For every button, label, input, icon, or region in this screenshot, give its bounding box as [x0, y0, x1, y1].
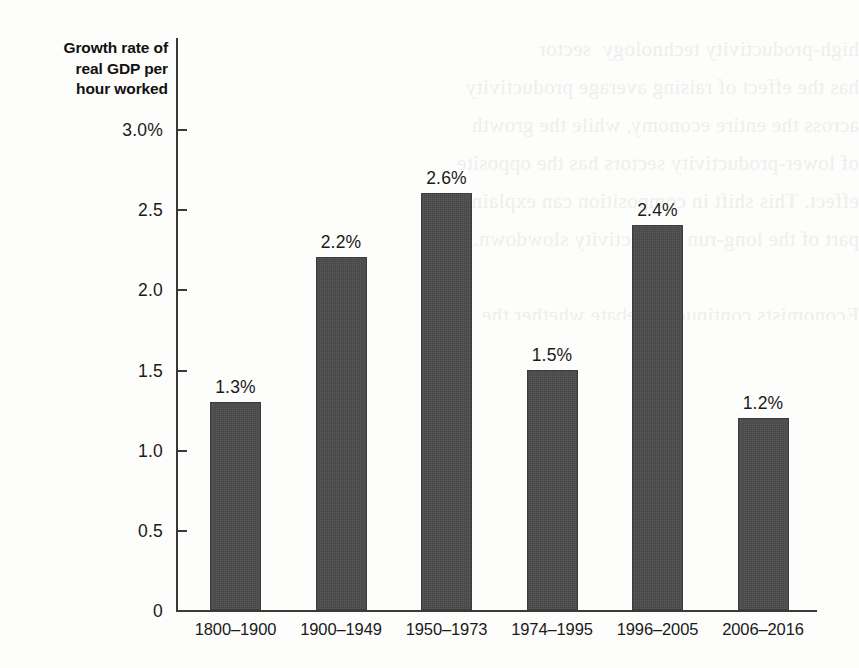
x-axis-tick-label: 1800–1900: [195, 620, 277, 639]
bar[interactable]: 2.2%: [316, 257, 367, 610]
bar-value-label: 2.4%: [637, 200, 678, 221]
x-axis-line: [176, 610, 817, 612]
x-axis-tick-label: 1950–1973: [406, 620, 488, 639]
bar-value-label: 2.2%: [321, 232, 362, 253]
y-axis-title-line-3: hour worked: [10, 79, 168, 100]
bar[interactable]: 2.6%: [421, 193, 472, 610]
y-axis-tick-label: 0: [153, 601, 163, 622]
y-axis-tick-mark: [178, 370, 187, 372]
bar[interactable]: 1.3%: [210, 402, 261, 610]
bar[interactable]: 1.2%: [738, 418, 789, 610]
y-axis-tick-label: 2.0: [138, 280, 163, 301]
y-axis-tick-mark: [178, 289, 187, 291]
x-axis-tick-label: 1900–1949: [300, 620, 382, 639]
y-axis-tick-mark: [178, 530, 187, 532]
y-axis-line: [176, 38, 178, 612]
bar-chart: Growth rate of real GDP per hour worked …: [0, 0, 859, 668]
y-axis-tick-mark: [178, 209, 187, 211]
bar[interactable]: 1.5%: [527, 370, 578, 611]
bar-value-label: 2.6%: [426, 168, 467, 189]
plot-area: 3.0%2.52.01.51.00.50 1.3%2.2%2.6%1.5%2.4…: [176, 38, 817, 612]
bar-value-label: 1.3%: [215, 377, 256, 398]
x-axis-tick-label: 1974–1995: [511, 620, 593, 639]
y-axis-tick-label: 1.0: [138, 440, 163, 461]
y-axis-title-line-1: Growth rate of: [10, 38, 168, 59]
y-axis-tick-label: 2.5: [138, 200, 163, 221]
y-axis-title: Growth rate of real GDP per hour worked: [10, 38, 168, 100]
x-axis-tick-label: 1996–2005: [617, 620, 699, 639]
bar-value-label: 1.2%: [743, 393, 784, 414]
y-axis-tick-mark: [178, 129, 187, 131]
y-axis-tick-mark: [178, 450, 187, 452]
y-axis-tick-label: 3.0%: [122, 120, 163, 141]
y-axis-tick-label: 1.5: [138, 360, 163, 381]
bar[interactable]: 2.4%: [632, 225, 683, 610]
y-axis-tick-label: 0.5: [138, 520, 163, 541]
x-axis-tick-label: 2006–2016: [722, 620, 804, 639]
y-axis-title-line-2: real GDP per: [10, 59, 168, 80]
bar-value-label: 1.5%: [532, 345, 573, 366]
